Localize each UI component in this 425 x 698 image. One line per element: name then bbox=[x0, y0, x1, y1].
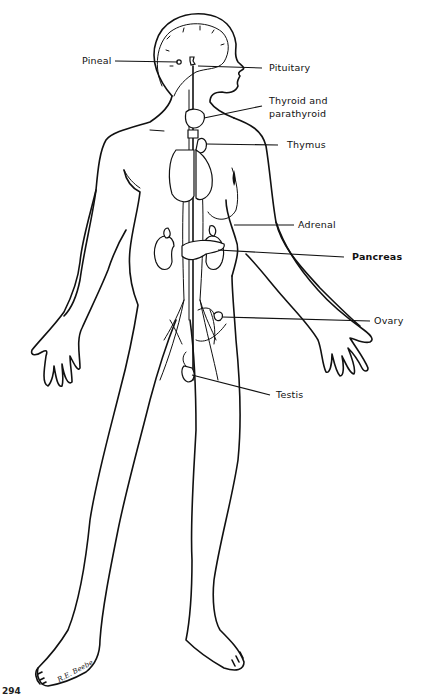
endocrine-figure-drawing bbox=[0, 0, 425, 698]
label-pituitary: Pituitary bbox=[269, 62, 310, 74]
label-thymus: Thymus bbox=[287, 139, 326, 151]
figure-number: 294 bbox=[2, 686, 21, 696]
label-thyroid: Thyroid and bbox=[269, 95, 328, 107]
label-testis: Testis bbox=[276, 389, 304, 401]
right-arm-outline bbox=[246, 222, 372, 376]
organs bbox=[154, 109, 226, 382]
label-pineal: Pineal bbox=[82, 55, 112, 67]
label-pancreas: Pancreas bbox=[352, 251, 402, 263]
label-adrenal: Adrenal bbox=[298, 219, 336, 231]
label-ovary: Ovary bbox=[374, 315, 403, 327]
label-parathyroid: parathyroid bbox=[269, 108, 326, 120]
